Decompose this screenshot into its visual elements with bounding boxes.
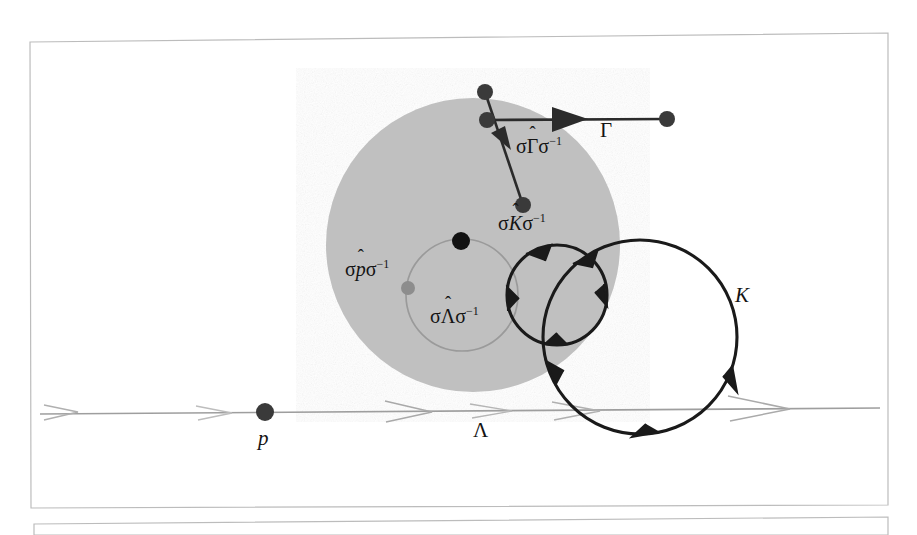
conj-lambda-base-wrap: ˆΛ <box>441 306 456 326</box>
conj-p-prefix: σ <box>345 258 356 280</box>
gamma-end-dot <box>659 111 675 127</box>
conj-k-suffix: σ <box>522 212 533 234</box>
conj-k-prefix: σ <box>498 212 509 234</box>
conj-lambda-exponent: −1 <box>466 304 479 318</box>
conj-p-hat: ˆ <box>358 247 364 265</box>
conj-gamma-prefix: σ <box>516 135 527 157</box>
label-k: K <box>735 285 749 306</box>
diagram-svg <box>0 0 917 535</box>
p-dot <box>256 403 274 421</box>
conj-lambda-hat: ˆ <box>445 294 451 312</box>
conj-k-exponent: −1 <box>533 211 546 225</box>
conj-gamma-suffix: σ <box>538 135 549 157</box>
conj-p-suffix: σ <box>366 258 377 280</box>
label-p: p <box>258 428 269 449</box>
lambda-line <box>40 396 880 422</box>
conj-lambda-suffix: σ <box>455 305 466 327</box>
label-conj-gamma: σˆΓσ−1 <box>516 135 562 156</box>
shaded-disk <box>326 98 620 392</box>
conj-gamma-hat: ˆ <box>530 124 536 142</box>
conj-gamma-exponent: −1 <box>549 134 562 148</box>
conj-gamma-base-wrap: ˆΓ <box>527 136 539 156</box>
label-gamma: Γ <box>600 120 612 141</box>
disk-center-dot <box>452 232 470 250</box>
conj-p-dot <box>401 281 415 295</box>
conj-p-base-wrap: ˆp <box>356 259 366 279</box>
conj-p-exponent: −1 <box>377 257 390 271</box>
label-conj-k: σˆKσ−1 <box>498 212 546 233</box>
label-conj-p: σˆpσ−1 <box>345 258 389 279</box>
conj-k-hat: ˆ <box>512 201 518 219</box>
label-conj-lambda: σˆΛσ−1 <box>430 305 479 326</box>
figure-canvas: Γ K p Λ σˆΓσ−1 σˆKσ−1 σˆpσ−1 σˆΛσ−1 <box>0 0 917 535</box>
conj-k-base-wrap: ˆK <box>509 213 522 233</box>
gamma-start-dot <box>479 112 495 128</box>
conj-lambda-prefix: σ <box>430 305 441 327</box>
label-lambda: Λ <box>473 420 488 441</box>
conj-gamma-start-dot <box>477 84 493 100</box>
